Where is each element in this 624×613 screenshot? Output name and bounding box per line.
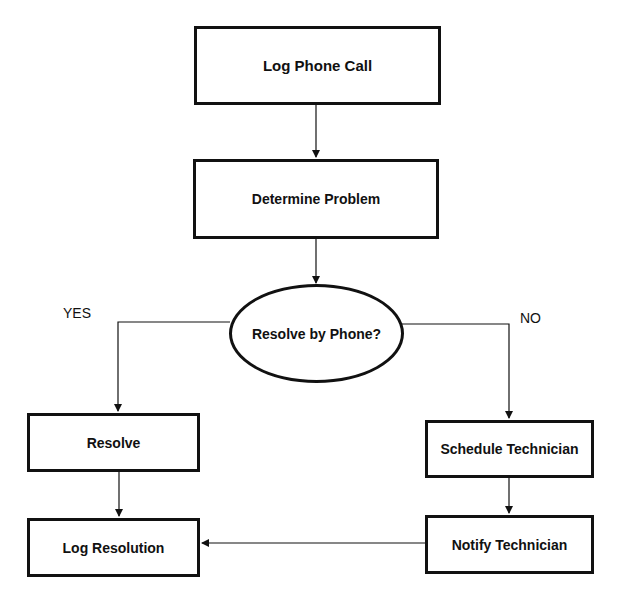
branch-label-yes: YES [63, 305, 91, 321]
node-log-phone-call: Log Phone Call [194, 26, 441, 105]
node-determine-problem: Determine Problem [193, 159, 439, 239]
node-notify-technician: Notify Technician [425, 515, 594, 574]
edge-decision-to-resolve [118, 322, 230, 411]
node-resolve: Resolve [27, 413, 200, 472]
node-label: Determine Problem [252, 191, 380, 207]
edge-decision-to-schedule [402, 324, 509, 418]
node-label: Resolve by Phone? [252, 326, 381, 342]
node-log-resolution: Log Resolution [27, 518, 200, 577]
branch-label-no: NO [520, 310, 541, 326]
node-label: Resolve [87, 435, 141, 451]
node-schedule-technician: Schedule Technician [425, 420, 594, 478]
node-label: Schedule Technician [440, 441, 578, 457]
node-decision-resolve-by-phone: Resolve by Phone? [229, 284, 404, 383]
node-label: Log Resolution [63, 540, 165, 556]
node-label: Log Phone Call [263, 57, 372, 74]
node-label: Notify Technician [452, 537, 568, 553]
